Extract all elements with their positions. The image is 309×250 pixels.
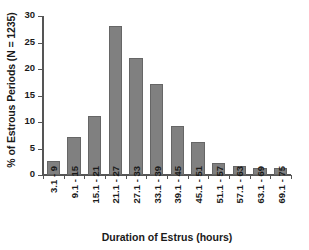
x-axis-title: Duration of Estrus (hours): [43, 231, 291, 243]
x-tick-label-text: 69.1 - 75: [275, 166, 286, 204]
y-tick-label: 10: [24, 115, 35, 126]
x-tick-label: 69.1 - 75: [274, 166, 288, 224]
x-tick: [208, 175, 209, 179]
y-tick-label: 30: [24, 9, 35, 20]
x-tick: [270, 175, 271, 179]
y-tick-label: 20: [24, 62, 35, 73]
x-tick-label-text: 63.1 - 69: [255, 166, 266, 204]
x-tick: [167, 175, 168, 179]
x-tick-label: 45.1 - 51: [191, 166, 205, 224]
x-tick-label-text: 57.1 - 63: [234, 166, 245, 204]
x-tick-label-text: 51.1 - 57: [213, 166, 224, 204]
x-tick-label: 9.1 - 15: [67, 166, 81, 224]
x-tick: [291, 175, 292, 179]
y-tick-label: 15: [24, 89, 35, 100]
x-tick: [188, 175, 189, 179]
y-tick-label: 5: [30, 142, 35, 153]
x-tick-label: 51.1 - 57: [212, 166, 226, 224]
y-tick: 10: [38, 122, 43, 123]
y-tick: 25: [38, 43, 43, 44]
y-tick: 20: [38, 69, 43, 70]
x-tick: [126, 175, 127, 179]
y-tick: 15: [38, 96, 43, 97]
x-tick-label: 21.1 - 27: [108, 166, 122, 224]
x-tick-label: 63.1 - 69: [253, 166, 267, 224]
x-tick-label-text: 39.1 - 45: [172, 166, 183, 204]
x-tick-label: 3.1 - 9: [46, 166, 60, 224]
x-tick-label-text: 21.1 - 27: [110, 166, 121, 204]
bar: [109, 26, 123, 175]
x-tick: [64, 175, 65, 179]
x-tick-label-text: 45.1 - 51: [193, 166, 204, 204]
y-tick-label: 25: [24, 36, 35, 47]
x-tick-label: 27.1 - 33: [129, 166, 143, 224]
y-axis-title-text: % of Estrous Periods (N = 1235): [5, 12, 17, 167]
x-tick: [146, 175, 147, 179]
x-tick-label-text: 9.1 - 15: [69, 166, 80, 198]
plot-area: 051015202530: [43, 16, 291, 175]
x-tick-label: 39.1 - 45: [170, 166, 184, 224]
x-tick-label: 57.1 - 63: [232, 166, 246, 224]
y-tick: 5: [38, 149, 43, 150]
x-tick-label: 15.1 - 21: [88, 166, 102, 224]
x-tick: [43, 175, 44, 179]
x-tick-label-text: 33.1 - 39: [151, 166, 162, 204]
x-tick-label-text: 3.1 - 9: [48, 166, 59, 193]
x-tick: [105, 175, 106, 179]
bar: [129, 58, 143, 175]
y-tick-label: 0: [30, 168, 35, 179]
x-tick: [229, 175, 230, 179]
x-tick-label-text: 27.1 - 33: [131, 166, 142, 204]
x-tick: [84, 175, 85, 179]
histogram-figure: % of Estrous Periods (N = 1235) 05101520…: [0, 0, 309, 250]
y-tick: 30: [38, 16, 43, 17]
bar: [150, 84, 164, 175]
x-tick-label: 33.1 - 39: [150, 166, 164, 224]
x-tick-label-text: 15.1 - 21: [89, 166, 100, 204]
y-axis-title: % of Estrous Periods (N = 1235): [0, 0, 22, 180]
x-tick: [250, 175, 251, 179]
